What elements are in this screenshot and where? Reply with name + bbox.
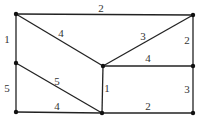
edge-weight-label: 5 (54, 75, 60, 87)
edge-weight-label: 3 (140, 30, 146, 42)
node-E (191, 64, 195, 68)
node-G (100, 111, 104, 115)
node-A (14, 12, 18, 16)
edge-weight-label: 4 (58, 27, 64, 39)
edge-D-G (102, 66, 103, 113)
edge-weight-label: 2 (145, 100, 151, 112)
edge-weight-labels: 214325541342 (4, 2, 190, 112)
edge-A-B (16, 14, 193, 15)
node-F (14, 110, 18, 114)
node-D (101, 64, 105, 68)
edge-weight-label: 4 (54, 100, 60, 112)
edge-F-G (16, 112, 102, 113)
edge-weight-label: 2 (184, 34, 190, 46)
node-C (14, 61, 18, 65)
edge-weight-label: 3 (184, 83, 190, 95)
nodes (14, 12, 195, 115)
weighted-graph: 214325541342 (0, 0, 207, 118)
edges (16, 14, 193, 113)
edge-A-D (16, 14, 103, 66)
edge-weight-label: 1 (104, 82, 110, 94)
edge-weight-label: 4 (145, 52, 151, 64)
edge-weight-label: 2 (98, 2, 104, 14)
edge-weight-label: 1 (4, 33, 10, 45)
edge-weight-label: 5 (4, 82, 10, 94)
node-H (191, 111, 195, 115)
node-B (191, 13, 195, 17)
